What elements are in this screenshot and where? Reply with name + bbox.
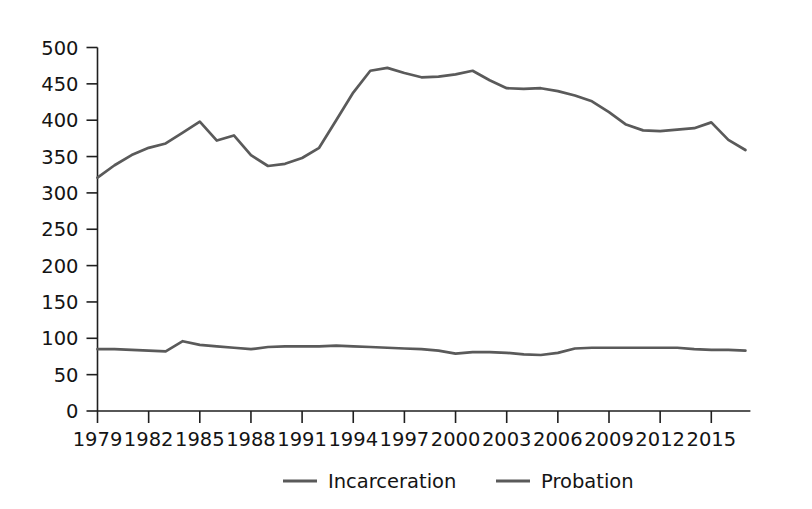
x-tick-label: 1988 xyxy=(226,428,276,451)
y-tick-label: 100 xyxy=(41,327,78,350)
x-tick-label: 2012 xyxy=(635,428,685,451)
x-tick-label: 2009 xyxy=(584,428,634,451)
line-chart: 050100150200250300350400450500 197919821… xyxy=(0,0,812,509)
y-tick-label: 150 xyxy=(41,291,78,314)
x-tick-label: 2006 xyxy=(533,428,583,451)
legend-label-probation: Probation xyxy=(541,470,634,493)
x-tick-label: 1994 xyxy=(328,428,378,451)
x-tick-label: 2003 xyxy=(482,428,532,451)
y-tick-label: 250 xyxy=(41,218,78,241)
y-tick-label: 50 xyxy=(54,364,79,387)
y-tick-label: 300 xyxy=(41,182,78,205)
y-tick-label: 400 xyxy=(41,109,78,132)
legend-label-incarceration: Incarceration xyxy=(328,470,456,493)
y-tick-label: 500 xyxy=(41,37,78,60)
x-tick-label: 1982 xyxy=(124,428,174,451)
series-line-incarceration xyxy=(98,341,746,355)
x-tick-label: 2015 xyxy=(686,428,736,451)
x-tick-label: 2000 xyxy=(431,428,481,451)
x-tick-label: 1991 xyxy=(277,428,327,451)
series-lines xyxy=(98,68,746,355)
series-line-probation xyxy=(98,68,746,178)
chart-container: 050100150200250300350400450500 197919821… xyxy=(0,0,812,509)
y-axis: 050100150200250300350400450500 xyxy=(41,37,97,424)
y-tick-label: 350 xyxy=(41,146,78,169)
x-axis: 1979198219851988199119941997200020032006… xyxy=(73,411,751,451)
chart-legend: IncarcerationProbation xyxy=(283,470,634,493)
y-tick-label: 450 xyxy=(41,73,78,96)
y-tick-label: 200 xyxy=(41,255,78,278)
y-tick-label: 0 xyxy=(66,400,78,423)
x-tick-label: 1985 xyxy=(175,428,225,451)
x-tick-label: 1997 xyxy=(380,428,430,451)
x-tick-label: 1979 xyxy=(73,428,123,451)
